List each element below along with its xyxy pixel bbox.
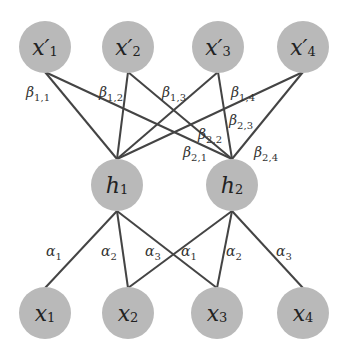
node-label: x bbox=[293, 301, 305, 326]
weight-subscript: 1 bbox=[190, 251, 196, 262]
beta-weight-label: β2,4 bbox=[254, 144, 278, 163]
beta-weight-label: β2,1 bbox=[183, 144, 207, 163]
weight-subscript: 1 bbox=[55, 251, 61, 262]
edge-h2-x2 bbox=[128, 211, 232, 288]
weight-symbol: β bbox=[99, 84, 107, 100]
node-subscript: 3 bbox=[219, 310, 227, 325]
node-xp4: x′4 bbox=[277, 21, 329, 73]
edge-h1-x2 bbox=[117, 211, 128, 288]
weight-subscript: 2,4 bbox=[262, 152, 278, 163]
node-label: h bbox=[221, 173, 235, 198]
node-x2: x2 bbox=[102, 287, 154, 339]
node-xp2: x′2 bbox=[102, 21, 154, 73]
node-x4: x4 bbox=[277, 287, 329, 339]
node-label: x bbox=[118, 301, 130, 326]
weight-subscript: 3 bbox=[285, 251, 291, 262]
alpha-weight-label: α1 bbox=[46, 243, 62, 262]
node-label: x′ bbox=[290, 35, 307, 60]
edge-h1-x3 bbox=[117, 211, 217, 288]
node-label: x′ bbox=[32, 35, 49, 60]
node-subscript: 4 bbox=[308, 44, 316, 59]
weight-subscript: 1,4 bbox=[239, 92, 255, 103]
beta-weight-label: β1,2 bbox=[99, 84, 123, 103]
weight-symbol: β bbox=[231, 84, 239, 100]
weight-subscript: 1,1 bbox=[34, 92, 50, 103]
node-subscript: 2 bbox=[235, 182, 243, 197]
beta-weight-label: β1,4 bbox=[231, 84, 255, 103]
alpha-weight-label: α3 bbox=[145, 243, 161, 262]
node-label: x bbox=[207, 301, 219, 326]
weight-symbol: β bbox=[183, 144, 191, 160]
node-x3: x3 bbox=[191, 287, 243, 339]
node-x1: x1 bbox=[19, 287, 71, 339]
node-h2: h2 bbox=[206, 159, 258, 211]
weight-subscript: 2,2 bbox=[206, 134, 222, 145]
weight-subscript: 2 bbox=[235, 251, 241, 262]
node-subscript: 4 bbox=[305, 310, 313, 325]
node-subscript: 2 bbox=[130, 310, 138, 325]
edge-h2-x4 bbox=[232, 211, 303, 288]
weight-subscript: 2 bbox=[110, 251, 116, 262]
beta-weight-label: β2,3 bbox=[229, 112, 253, 131]
node-h1: h1 bbox=[91, 159, 143, 211]
node-xp1: x′1 bbox=[19, 21, 71, 73]
weight-symbol: β bbox=[26, 84, 34, 100]
beta-weight-label: β1,3 bbox=[162, 84, 186, 103]
alpha-weight-label: α3 bbox=[276, 243, 292, 262]
node-subscript: 1 bbox=[47, 310, 55, 325]
weight-symbol: β bbox=[162, 84, 170, 100]
weight-subscript: 2,3 bbox=[237, 120, 253, 131]
alpha-weight-label: α2 bbox=[101, 243, 117, 262]
node-subscript: 2 bbox=[133, 44, 141, 59]
beta-weight-label: β1,1 bbox=[26, 84, 50, 103]
weight-symbol: β bbox=[254, 144, 262, 160]
weight-subscript: 2,1 bbox=[191, 152, 207, 163]
autoencoder-diagram: x′1x′2x′3x′4h1h2x1x2x3x4 β1,1β1,2β1,3β1,… bbox=[0, 0, 350, 359]
weight-symbol: β bbox=[198, 126, 206, 142]
node-label: x bbox=[35, 301, 47, 326]
node-subscript: 1 bbox=[50, 44, 58, 59]
alpha-weight-label: α2 bbox=[226, 243, 242, 262]
node-xp3: x′3 bbox=[192, 21, 244, 73]
node-subscript: 1 bbox=[120, 182, 128, 197]
weight-subscript: 1,3 bbox=[170, 92, 186, 103]
weight-subscript: 1,2 bbox=[107, 92, 123, 103]
alpha-weight-label: α1 bbox=[181, 243, 197, 262]
node-label: x′ bbox=[115, 35, 132, 60]
node-subscript: 3 bbox=[223, 44, 231, 59]
weight-symbol: β bbox=[229, 112, 237, 128]
beta-weight-label: β2,2 bbox=[198, 126, 222, 145]
weight-subscript: 3 bbox=[154, 251, 160, 262]
node-label: h bbox=[106, 173, 120, 198]
node-label: x′ bbox=[205, 35, 222, 60]
